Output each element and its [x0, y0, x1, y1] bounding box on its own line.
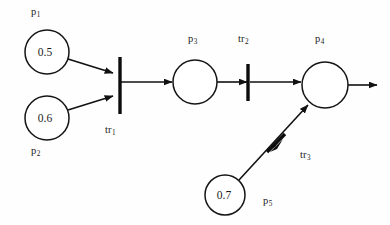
place-p5-label: p5 [263, 196, 272, 207]
place-p1-value: 0.5 [38, 46, 53, 58]
place-p2-label: p2 [31, 146, 40, 157]
place-p5-value: 0.7 [217, 189, 232, 201]
place-p1-label: p1 [31, 7, 40, 18]
transition-tr3-label: tr3 [300, 150, 311, 161]
transition-tr2-label: tr2 [238, 34, 249, 45]
place-p3-label: p3 [188, 34, 197, 45]
place-p3[interactable] [173, 60, 217, 104]
arc-p1-to-tr1 [68, 59, 113, 73]
petri-net-diagram: 0.5 0.6 0.7 p1 p2 p3 p4 p5 tr1 tr2 tr3 [0, 0, 390, 225]
transition-tr1-label: tr1 [105, 125, 116, 136]
place-p4-label: p4 [315, 34, 324, 45]
arc-p2-to-tr1 [68, 96, 113, 110]
place-layer: 0.5 0.6 0.7 [25, 30, 348, 215]
arc-p5-to-p4 [239, 105, 308, 180]
place-p4[interactable] [302, 62, 348, 108]
place-p2-value: 0.6 [38, 112, 53, 124]
